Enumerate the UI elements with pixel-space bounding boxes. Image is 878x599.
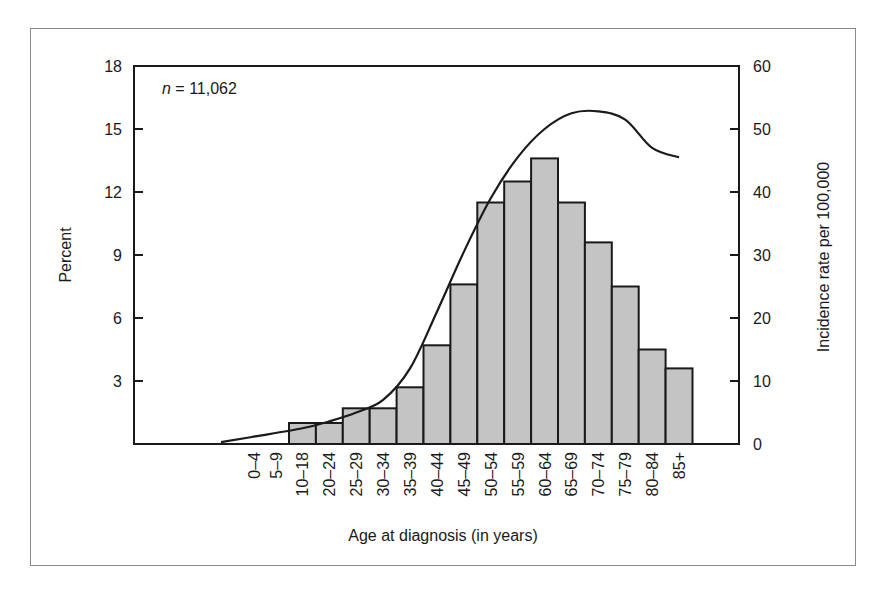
y2-tick-label: 50 [753, 121, 771, 138]
x-tick-label: 50–54 [483, 452, 500, 497]
y2-axis-title: Incidence rate per 100,000 [815, 162, 832, 352]
x-tick-label: 35–39 [402, 452, 419, 497]
x-tick-label: 80–84 [644, 452, 661, 497]
x-tick-label: 5–9 [268, 452, 285, 479]
bar-45–49 [450, 284, 477, 444]
x-tick-label: 75–79 [617, 452, 634, 497]
y-tick-label: 15 [104, 121, 122, 138]
x-tick-label: 65–69 [563, 452, 580, 497]
x-tick-label: 30–34 [375, 452, 392, 497]
bar-60–64 [531, 158, 558, 444]
y-tick-label: 12 [104, 184, 122, 201]
bar-30–34 [370, 408, 397, 444]
x-tick-label: 55–59 [510, 452, 527, 497]
bar-20–24 [316, 423, 343, 444]
x-tick-label: 60–64 [537, 452, 554, 497]
y-tick-label: 18 [104, 58, 122, 75]
bar-35–39 [397, 387, 424, 444]
y2-tick-label: 30 [753, 247, 771, 264]
x-axis-title: Age at diagnosis (in years) [348, 527, 537, 544]
y2-tick-label: 10 [753, 373, 771, 390]
bar-80–84 [639, 350, 666, 445]
y2-tick-label: 0 [753, 436, 762, 453]
bar-85+ [666, 368, 693, 444]
y-tick-label: 3 [113, 373, 122, 390]
x-tick-label: 25–29 [348, 452, 365, 497]
x-tick-label: 40–44 [429, 452, 446, 497]
x-tick-label: 0–4 [246, 452, 263, 479]
bar-40–44 [424, 345, 451, 444]
x-tick-label: 45–49 [456, 452, 473, 497]
y-axis-title: Percent [57, 227, 74, 283]
y-tick-label: 9 [113, 247, 122, 264]
bar-55–59 [504, 182, 531, 445]
bar-50–54 [477, 203, 504, 445]
sample-size-annotation: n = 11,062 [162, 80, 237, 97]
x-tick-label: 10–18 [294, 452, 311, 497]
y2-tick-label: 40 [753, 184, 771, 201]
bar-75–79 [612, 287, 639, 445]
x-tick-label: 20–24 [321, 452, 338, 497]
y-tick-label: 6 [113, 310, 122, 327]
y2-tick-label: 20 [753, 310, 771, 327]
bars-layer [289, 158, 693, 444]
bar-70–74 [585, 242, 612, 444]
y2-tick-label: 60 [753, 58, 771, 75]
bar-65–69 [558, 203, 585, 445]
x-tick-label: 70–74 [590, 452, 607, 497]
x-tick-label: 85+ [671, 452, 688, 479]
histogram-chart: 36912151801020304050600–45–910–1820–2425… [0, 0, 878, 599]
